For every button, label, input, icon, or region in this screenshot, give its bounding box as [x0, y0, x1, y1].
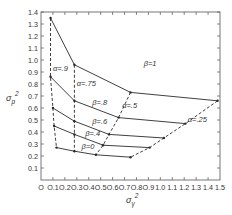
x-tick-label: O.7: [119, 183, 131, 192]
data-point: [102, 144, 104, 146]
y-tick-label: 1.2: [28, 32, 38, 41]
x-tick-label: 1.1: [167, 183, 177, 192]
series-label: β=1: [143, 59, 157, 68]
series-label: α=.5: [122, 101, 138, 110]
alpha-curve: [51, 18, 57, 148]
x-tick-label: O.5: [95, 183, 107, 192]
series-label: β=0: [81, 142, 96, 151]
y-tick-label: 0.5: [28, 116, 38, 125]
x-axis-title: σγ2: [126, 192, 139, 208]
series-label: α=.75: [77, 79, 97, 88]
x-tick-label: 1.0: [155, 183, 165, 192]
alpha-curve: [131, 101, 218, 157]
y-tick-label: 1.1: [28, 44, 38, 53]
data-point: [163, 137, 165, 139]
data-point: [95, 154, 97, 156]
x-tick-label: O.1: [47, 183, 59, 192]
data-point: [184, 122, 186, 124]
x-tick-label: O: [38, 183, 44, 192]
data-point: [73, 64, 75, 66]
plot-frame: [41, 12, 220, 180]
data-point: [55, 146, 57, 148]
x-tick-label: 1.2: [179, 183, 189, 192]
chart: OO.1O.2O.3O.4O.5O.6O.7O.8O.91.01.11.21.3…: [0, 0, 232, 215]
x-axis-title-sup: 2: [134, 192, 139, 199]
data-point: [216, 100, 218, 102]
y-axis-title-sub: p: [10, 98, 15, 106]
y-tick-label: 0.7: [28, 92, 38, 101]
x-tick-label: O.2: [59, 183, 71, 192]
y-tick-label: 1.4: [28, 8, 38, 17]
plot-border: [41, 12, 220, 180]
data-point: [129, 156, 131, 158]
data-point: [52, 107, 54, 109]
data-point: [108, 133, 110, 135]
y-tick-label: 0.4: [28, 128, 38, 137]
data-point: [73, 150, 75, 152]
data-point: [73, 133, 75, 135]
data-point: [53, 125, 55, 127]
data-point: [129, 91, 131, 93]
series-label: β=.6: [91, 117, 108, 126]
data-point: [73, 120, 75, 122]
data-point: [148, 146, 150, 148]
y-tick-label: 0.2: [28, 152, 38, 161]
y-tick-label: 0.3: [28, 140, 38, 149]
y-tick-label: 0.1: [28, 164, 38, 173]
x-tick-label: 1.3: [191, 183, 201, 192]
series-label: β=.8: [91, 98, 108, 107]
x-axis-title-sub: γ: [131, 200, 135, 208]
x-tick-label: O.6: [107, 183, 119, 192]
x-tick-label: 1.4: [203, 183, 213, 192]
x-tick-label: O.4: [83, 183, 95, 192]
x-tick-label: O.3: [71, 183, 83, 192]
y-tick-label: 1.0: [28, 56, 38, 65]
y-axis-title-sup: 2: [14, 90, 19, 97]
data-point: [49, 17, 51, 19]
series-label: α=.9: [53, 64, 69, 73]
data-point: [117, 116, 119, 118]
beta-curve: [51, 18, 218, 101]
y-tick-label: 0.8: [28, 80, 38, 89]
beta-curves: [51, 18, 218, 157]
y-tick-label: 1.3: [28, 20, 38, 29]
x-tick-label: O.8: [131, 183, 143, 192]
x-tick-label: O.9: [143, 183, 155, 192]
y-axis-title: σp2: [6, 90, 19, 106]
beta-curve: [54, 126, 150, 148]
y-tick-label: 0.9: [28, 68, 38, 77]
data-point: [49, 76, 51, 78]
series-labels: β=1α=.9α=.75β=.8α=.5β=.6β=.4α=.25β=0: [53, 59, 208, 151]
data-point: [73, 100, 75, 102]
series-label: α=.25: [188, 115, 208, 124]
x-tick-label: 1.5: [215, 183, 225, 192]
y-tick-label: 0.6: [28, 104, 38, 113]
series-label: β=.4: [84, 129, 100, 138]
